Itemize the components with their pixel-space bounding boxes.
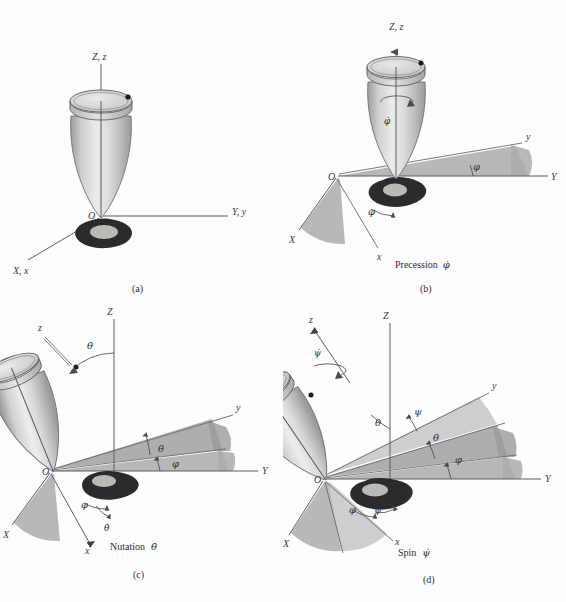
label-axis-X: X	[2, 529, 10, 540]
label-axis-X: X	[288, 234, 296, 245]
panel-c: Z z Y y X x O θ θ φ φ θ̇ Nutationθ̇ (c)	[0, 301, 283, 602]
sector-phi-cap	[503, 457, 522, 479]
label-axis-x: x	[394, 536, 400, 547]
axis-z-stub	[44, 339, 70, 366]
label-angle-theta-body: θ	[375, 417, 381, 428]
label-angle-phi-left: φ	[349, 504, 356, 515]
label-angle-phi-Xx: φ	[368, 206, 375, 217]
label-axis-Zz: Z, z	[92, 51, 107, 62]
top-group	[0, 347, 81, 482]
label-axis-y: y	[491, 380, 497, 391]
panel-id-b: (b)	[420, 283, 432, 295]
label-origin: O	[42, 466, 49, 477]
caption-d: Spinψ̇	[398, 547, 430, 558]
panel-a: Z, z Y, y X, x O (a)	[0, 0, 283, 301]
label-axis-Yy: Y, y	[232, 206, 247, 217]
pivot-highlight	[90, 225, 118, 239]
sector-phi-Yy	[338, 146, 528, 176]
label-rate-phidot: φ̇	[384, 116, 391, 126]
label-axis-y: y	[235, 402, 241, 413]
label-angle-phi-Yy: φ	[473, 161, 480, 172]
arc-psi-right	[409, 417, 417, 431]
label-angle-psi-right: ψ	[414, 406, 422, 417]
label-rate-thetadot: θ̇	[104, 523, 110, 533]
rim-marker-dot	[125, 94, 130, 99]
label-axis-x: x	[84, 545, 90, 556]
arc-thetadot	[96, 506, 109, 517]
label-axis-Y: Y	[262, 465, 269, 476]
label-axis-Zz: Z, z	[389, 21, 404, 32]
panel-b: Z, z Y y X x O φ φ φ̇ Precessionφ̇ (b)	[283, 0, 566, 301]
label-axis-y: y	[525, 131, 531, 142]
label-axis-Xx: X, x	[12, 265, 29, 276]
label-angle-theta-right: θ	[433, 432, 439, 443]
euler-angles-figure: Z, z Y, y X, x O (a)	[0, 0, 566, 602]
label-axis-Y: Y	[545, 473, 552, 484]
panel-id-c: (c)	[133, 569, 144, 581]
sector-phi-Xx	[301, 178, 345, 244]
label-angle-phi-right: φ	[455, 454, 462, 465]
label-axis-Y: Y	[551, 171, 558, 182]
label-axis-x: x	[376, 251, 382, 262]
pivot-highlight	[362, 484, 388, 497]
rim-marker-dot	[419, 61, 424, 66]
sector-phi-Xx	[14, 473, 60, 541]
panel-d: Z z Y y X x O θ ψ θ φ φ ψ ψ̇ Spinψ̇ (d)	[283, 301, 566, 602]
label-angle-phi-Xx: φ	[81, 499, 88, 510]
label-angle-phi-right: φ	[172, 458, 179, 469]
label-axis-Z: Z	[383, 310, 389, 321]
axis-z	[45, 337, 72, 365]
panel-id-a: (a)	[132, 283, 143, 295]
label-rate-psidot: ψ̇	[314, 348, 322, 358]
rim-marker-dot	[309, 393, 314, 398]
label-axis-z: z	[37, 322, 42, 333]
label-angle-theta-right: θ	[158, 443, 164, 454]
caption-b: Precessionφ̇	[395, 259, 450, 270]
pivot-highlight	[92, 475, 116, 487]
label-axis-z: z	[308, 314, 313, 325]
sector-phi-cap	[218, 451, 235, 471]
label-origin: O	[88, 210, 95, 221]
label-axis-Z: Z	[107, 306, 113, 317]
panel-id-d: (d)	[423, 574, 435, 586]
label-axis-X: X	[283, 538, 290, 549]
label-origin: O	[314, 474, 321, 485]
pivot-highlight	[383, 184, 407, 197]
label-angle-psi-left: ψ	[374, 504, 382, 515]
label-origin: O	[328, 171, 335, 182]
sector-phi-Yy-cap	[511, 145, 532, 176]
label-angle-theta-Zz: θ	[87, 340, 93, 351]
caption-c: Nutationθ̇	[110, 541, 157, 552]
